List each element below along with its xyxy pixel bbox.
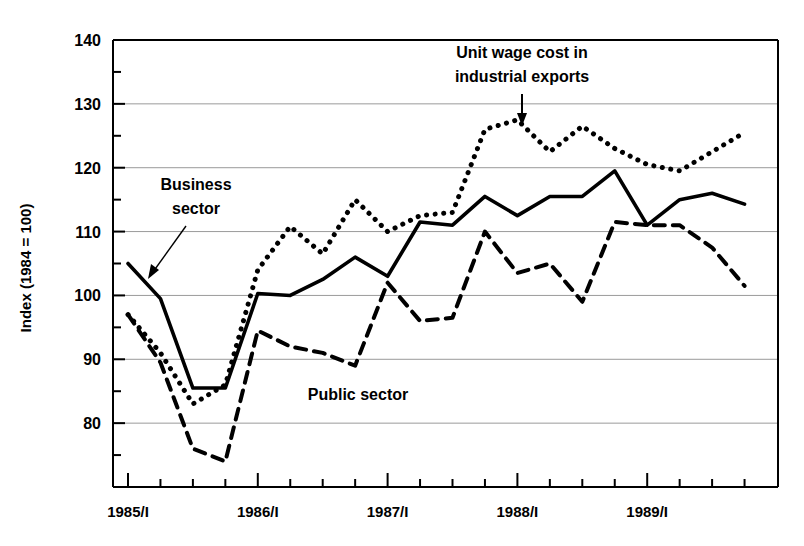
x-tick-label-1987/I: 1987/I bbox=[367, 503, 409, 520]
y-axis-title: Index (1984 = 100) bbox=[17, 204, 34, 333]
unit-wage-cost-annotation-line1: Unit wage cost in bbox=[456, 44, 588, 61]
x-tick-label-1985/I: 1985/I bbox=[107, 503, 149, 520]
x-tick-label-1986/I: 1986/I bbox=[237, 503, 279, 520]
plot-background bbox=[113, 40, 778, 487]
y-tick-label-90: 90 bbox=[83, 351, 101, 368]
x-tick-label-1988/I: 1988/I bbox=[497, 503, 539, 520]
public-sector-annotation: Public sector bbox=[308, 386, 408, 403]
y-tick-label-120: 120 bbox=[74, 160, 101, 177]
y-axis-tick-labels: 8090100110120130140 bbox=[74, 32, 101, 432]
unit-wage-cost-annotation-line2: industrial exports bbox=[455, 68, 589, 85]
business-sector-annotation-line1: Business bbox=[160, 176, 231, 193]
x-axis-tick-labels: 1985/I1986/I1987/I1988/I1989/I bbox=[107, 503, 668, 520]
public-sector-annotation-label: Public sector bbox=[308, 386, 408, 403]
y-tick-label-100: 100 bbox=[74, 287, 101, 304]
line-chart: 8090100110120130140 1985/I1986/I1987/I19… bbox=[0, 0, 804, 546]
y-tick-label-130: 130 bbox=[74, 96, 101, 113]
y-tick-label-80: 80 bbox=[83, 415, 101, 432]
business-sector-annotation-line2: sector bbox=[172, 200, 220, 217]
chart-figure: 8090100110120130140 1985/I1986/I1987/I19… bbox=[0, 0, 804, 546]
y-tick-label-110: 110 bbox=[75, 224, 101, 241]
y-tick-label-140: 140 bbox=[74, 32, 101, 49]
x-tick-label-1989/I: 1989/I bbox=[626, 503, 668, 520]
